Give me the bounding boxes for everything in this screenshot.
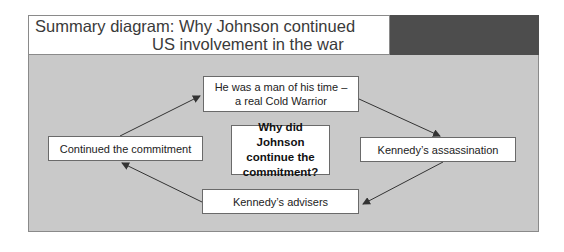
center-question: Why did Johnson continue the commitment? <box>231 125 330 175</box>
arrow-continued-to-cold-warrior <box>120 96 200 136</box>
node-continued: Continued the commitment <box>48 136 203 161</box>
node-assassination-label: Kennedy’s assassination <box>378 143 499 157</box>
node-advisers: Kennedy’s advisers <box>202 189 359 214</box>
node-cold-warrior-label: He was a man of his time – a real Cold W… <box>214 80 348 108</box>
arrow-cold-warrior-to-assassination <box>359 99 440 136</box>
node-assassination: Kennedy’s assassination <box>360 137 516 162</box>
arrow-advisers-to-continued <box>122 163 202 202</box>
arrow-assassination-to-advisers <box>363 162 443 204</box>
node-continued-label: Continued the commitment <box>60 142 191 156</box>
node-cold-warrior: He was a man of his time – a real Cold W… <box>203 76 359 112</box>
center-question-label: Why did Johnson continue the commitment? <box>238 120 323 180</box>
node-advisers-label: Kennedy’s advisers <box>233 195 328 209</box>
